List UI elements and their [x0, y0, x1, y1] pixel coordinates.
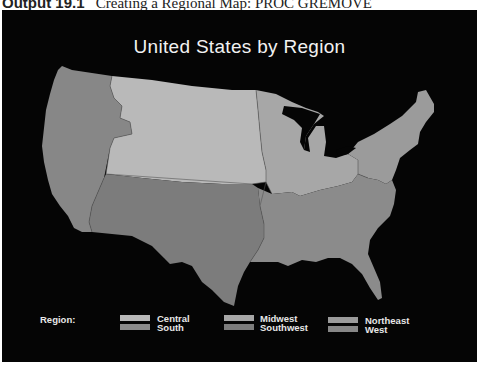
legend-swatch-west: [328, 326, 358, 332]
legend-swatch-southwest: [224, 324, 254, 330]
legend-label-west: West: [365, 325, 388, 335]
legend-title: Region:: [40, 315, 75, 325]
figure-caption: Output 19.1 Creating a Regional Map: PRO…: [0, 0, 483, 10]
caption-label: Output 19.1: [2, 0, 85, 10]
map-panel: United States by Region Region: Central: [2, 10, 477, 362]
legend-label-southwest: Southwest: [260, 323, 308, 333]
legend-label-south: South: [157, 323, 184, 333]
legend-swatch-midwest: [224, 315, 254, 321]
legend-swatch-central: [120, 315, 150, 321]
legend-swatch-northeast: [328, 317, 358, 323]
legend-swatch-south: [120, 324, 150, 330]
map-legend: Region: Central South Midwest Southwest …: [2, 10, 477, 362]
caption-text: Creating a Regional Map: PROC GREMOVE: [96, 0, 372, 10]
